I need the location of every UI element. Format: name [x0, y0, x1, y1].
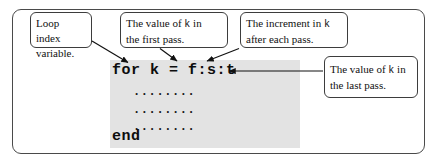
code-line-body-3: ........	[133, 120, 195, 134]
callout-increment-step: The increment in k after each pass.	[240, 12, 348, 48]
callout-loop-index-variable: Loop index variable.	[30, 12, 92, 48]
figure-container: for k = f:s:t ........ ........ ........…	[0, 0, 440, 165]
callout-loop-index-line1: Loop index	[36, 17, 60, 44]
code-line-body-2: ........	[133, 103, 195, 117]
callout-last-pass-line1-suffix: in	[394, 63, 405, 75]
callout-first-pass-value: The value of k in the first pass.	[120, 12, 228, 48]
callout-first-pass-line2: the first pass.	[126, 33, 184, 45]
callout-last-pass-value: The value of k in the last pass.	[324, 56, 418, 98]
callout-increment-line1-prefix: The increment in	[246, 17, 324, 29]
code-line-end-keyword: end	[112, 128, 141, 146]
callout-last-pass-line1-prefix: The value of	[330, 63, 388, 75]
code-line-for-header: for k = f:s:t	[112, 62, 236, 80]
callout-last-pass-line2: the last pass.	[330, 79, 386, 91]
callout-loop-index-line2: variable.	[36, 47, 74, 59]
callout-increment-line2: after each pass.	[246, 33, 314, 45]
code-line-body-1: ........	[133, 85, 195, 99]
callout-first-pass-line1-suffix: in	[190, 17, 201, 29]
callout-increment-variable: k	[324, 19, 330, 30]
callout-first-pass-line1-prefix: The value of	[126, 17, 184, 29]
